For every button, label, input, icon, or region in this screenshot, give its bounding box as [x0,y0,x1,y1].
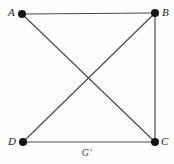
edge-group [22,13,155,142]
graph-figure: A B C D G′ [0,0,174,164]
vertex-label-c: C [161,136,168,147]
vertex-label-d: D [8,136,16,147]
vertex-a-dot [18,10,26,18]
graph-caption: G′ [0,147,174,158]
vertex-b-dot [151,9,159,17]
vertex-label-b: B [162,7,169,18]
vertex-d-dot [19,138,27,146]
vertex-label-a: A [8,7,15,18]
edge-a-b [22,13,155,14]
graph-canvas [0,0,174,164]
vertex-c-dot [151,138,159,146]
